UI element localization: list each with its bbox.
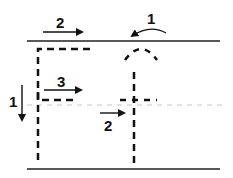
left-dashed-path bbox=[38, 49, 90, 165]
inner-dashed-step bbox=[38, 92, 74, 100]
middle-arrow-label: 3 bbox=[57, 73, 65, 90]
small-arrow-label: 2 bbox=[104, 117, 112, 134]
top-arrow-label: 2 bbox=[56, 14, 64, 31]
left-down-arrow-label: 1 bbox=[9, 93, 17, 110]
curved-arrow-label: 1 bbox=[147, 10, 155, 27]
diagram-canvas: 2 1 3 1 2 bbox=[0, 0, 233, 178]
dashed-arc bbox=[125, 49, 157, 60]
curved-arrow bbox=[132, 29, 166, 36]
